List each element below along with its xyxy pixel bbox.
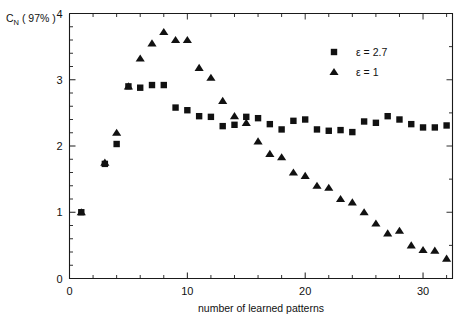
data-point-triangle bbox=[253, 137, 262, 144]
data-point-square bbox=[302, 116, 308, 122]
plot-frame bbox=[70, 14, 453, 279]
data-point-triangle bbox=[218, 97, 227, 104]
data-point-square bbox=[220, 123, 226, 129]
data-point-square bbox=[290, 118, 296, 124]
y-axis-title: CN ( 97% ) bbox=[6, 12, 56, 27]
data-point-square bbox=[149, 82, 155, 88]
y-tick-label: 0 bbox=[56, 273, 62, 285]
data-point-square bbox=[137, 85, 143, 91]
data-point-triangle bbox=[100, 158, 109, 165]
data-point-triangle bbox=[183, 36, 192, 43]
data-point-square bbox=[384, 113, 390, 119]
legend-marker-triangle bbox=[329, 68, 338, 75]
data-point-triangle bbox=[360, 208, 369, 215]
data-point-triangle bbox=[147, 39, 156, 46]
data-point-square bbox=[408, 121, 414, 127]
legend-marker-square bbox=[331, 49, 337, 55]
data-point-square bbox=[208, 114, 214, 120]
data-point-triangle bbox=[265, 150, 274, 157]
scatter-plot: 012340102030number of learned patternsCN… bbox=[0, 0, 459, 316]
data-point-square bbox=[161, 82, 167, 88]
data-point-triangle bbox=[289, 168, 298, 175]
data-point-square bbox=[373, 120, 379, 126]
data-point-square bbox=[196, 113, 202, 119]
data-point-square bbox=[172, 104, 178, 110]
data-point-triangle bbox=[159, 28, 168, 35]
x-tick-label: 0 bbox=[66, 285, 72, 297]
data-point-triangle bbox=[301, 172, 310, 179]
data-point-triangle bbox=[383, 229, 392, 236]
data-point-triangle bbox=[171, 36, 180, 43]
data-point-square bbox=[326, 128, 332, 134]
data-point-square bbox=[432, 124, 438, 130]
y-tick-label: 4 bbox=[56, 8, 62, 20]
x-tick-label: 30 bbox=[417, 285, 429, 297]
data-point-triangle bbox=[242, 119, 251, 126]
data-point-triangle bbox=[442, 255, 451, 262]
data-point-triangle bbox=[348, 198, 357, 205]
data-point-square bbox=[314, 126, 320, 132]
y-tick-label: 3 bbox=[56, 74, 62, 86]
data-point-square bbox=[396, 116, 402, 122]
data-point-square bbox=[361, 118, 367, 124]
x-tick-label: 20 bbox=[299, 285, 311, 297]
data-point-triangle bbox=[277, 153, 286, 160]
x-axis-title: number of learned patterns bbox=[198, 302, 324, 314]
data-point-square bbox=[267, 121, 273, 127]
data-point-triangle bbox=[407, 241, 416, 248]
data-point-triangle bbox=[77, 208, 86, 215]
data-point-triangle bbox=[336, 195, 345, 202]
data-point-triangle bbox=[230, 112, 239, 119]
data-point-triangle bbox=[430, 247, 439, 254]
data-point-triangle bbox=[112, 129, 121, 136]
data-point-triangle bbox=[395, 227, 404, 234]
data-point-square bbox=[231, 122, 237, 128]
data-point-square bbox=[113, 141, 119, 147]
data-point-triangle bbox=[312, 182, 321, 189]
x-tick-label: 10 bbox=[181, 285, 193, 297]
legend-label-eps-1: ε = 1 bbox=[356, 66, 379, 78]
data-point-triangle bbox=[418, 246, 427, 253]
legend-label-eps-27: ε = 2.7 bbox=[356, 46, 387, 58]
data-point-triangle bbox=[195, 64, 204, 71]
data-point-triangle bbox=[206, 74, 215, 81]
y-tick-label: 1 bbox=[56, 206, 62, 218]
data-point-triangle bbox=[371, 219, 380, 226]
data-point-square bbox=[184, 107, 190, 113]
data-point-square bbox=[337, 127, 343, 133]
data-point-square bbox=[278, 126, 284, 132]
data-point-square bbox=[349, 129, 355, 135]
data-point-square bbox=[443, 122, 449, 128]
data-point-square bbox=[255, 115, 261, 121]
data-point-triangle bbox=[124, 82, 133, 89]
data-point-triangle bbox=[136, 54, 145, 61]
chart-figure: 012340102030number of learned patternsCN… bbox=[0, 0, 459, 316]
data-point-square bbox=[420, 124, 426, 130]
y-tick-label: 2 bbox=[56, 140, 62, 152]
data-point-triangle bbox=[324, 184, 333, 191]
